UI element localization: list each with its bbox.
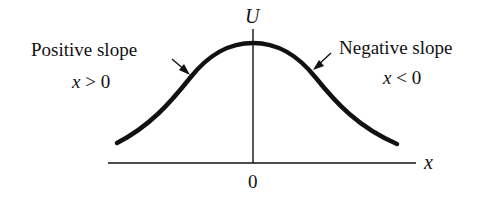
u-axis-label: U xyxy=(245,6,259,26)
origin-label: 0 xyxy=(248,172,258,191)
condition-variable: x xyxy=(72,71,80,92)
potential-curve xyxy=(117,43,397,144)
positive-slope-condition: x > 0 xyxy=(72,72,110,91)
positive-slope-label: Positive slope xyxy=(31,40,137,59)
negative-slope-label: Negative slope xyxy=(339,38,452,57)
negative-slope-arrow-icon xyxy=(313,53,331,70)
condition-variable: x xyxy=(383,67,391,88)
condition-operator: < xyxy=(396,67,407,88)
negative-slope-condition: x < 0 xyxy=(383,68,421,87)
positive-slope-arrow-icon xyxy=(172,59,190,75)
condition-operator: > xyxy=(85,71,96,92)
condition-value: 0 xyxy=(412,67,422,88)
x-axis-label: x xyxy=(424,152,433,172)
potential-energy-diagram: U x 0 Positive slope x > 0 Negative slop… xyxy=(0,0,503,198)
condition-value: 0 xyxy=(101,71,111,92)
